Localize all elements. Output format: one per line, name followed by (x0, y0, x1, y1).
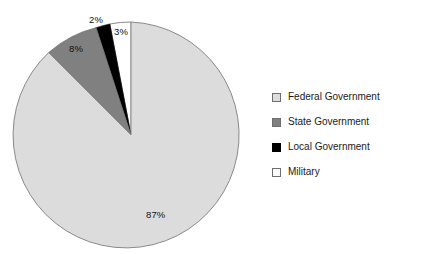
pie-plot-area: 87% 8% 2% 3% (0, 0, 265, 254)
legend-swatch-icon-federal-government (272, 93, 281, 102)
legend-swatch-icon-state-government (272, 118, 281, 127)
pie-chart-figure: 87% 8% 2% 3% Federal Government State Go… (0, 0, 423, 254)
legend-item-state-government[interactable]: State Government (272, 111, 422, 133)
pie-label-federal-government: 87% (146, 209, 165, 220)
legend-label-military: Military (288, 166, 320, 178)
pie-svg (0, 0, 265, 254)
legend-swatch-icon-military (272, 168, 281, 177)
chart-legend: Federal Government State Government Loca… (272, 86, 422, 186)
legend-label-local-government: Local Government (288, 141, 370, 153)
legend-item-military[interactable]: Military (272, 161, 422, 183)
legend-item-federal-government[interactable]: Federal Government (272, 86, 422, 108)
legend-label-federal-government: Federal Government (288, 91, 380, 103)
pie-label-local-government: 2% (89, 14, 103, 25)
pie-label-state-government: 8% (69, 43, 83, 54)
legend-item-local-government[interactable]: Local Government (272, 136, 422, 158)
pie-label-military: 3% (114, 26, 128, 37)
legend-label-state-government: State Government (288, 116, 369, 128)
pie-slices (13, 22, 239, 248)
legend-swatch-icon-local-government (272, 143, 281, 152)
